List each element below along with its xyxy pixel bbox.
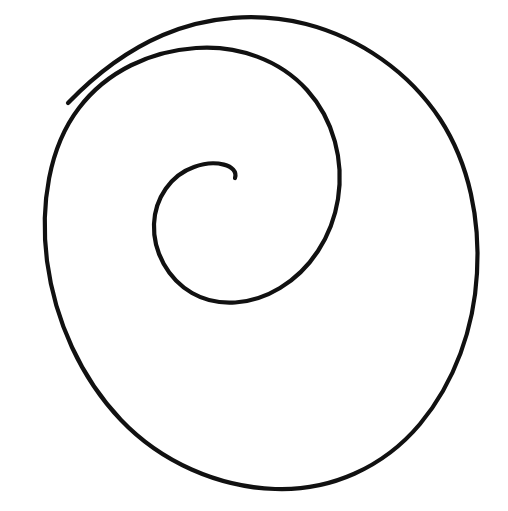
background-rect	[0, 0, 508, 511]
spiral-svg: Hand-drawn spiral	[0, 0, 508, 511]
drawing-canvas: Hand-drawn spiral	[0, 0, 508, 511]
